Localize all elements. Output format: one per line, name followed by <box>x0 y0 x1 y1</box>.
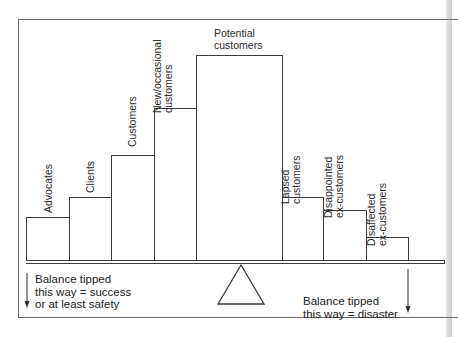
arrow-down-left-icon <box>25 273 30 308</box>
right-balance-note: Balance tipped this way = disaster <box>303 295 398 320</box>
fulcrum-triangle-icon <box>218 265 264 304</box>
left-balance-note: Balance tipped this way = success or at … <box>35 273 131 311</box>
arrow-down-right-icon <box>406 269 411 313</box>
